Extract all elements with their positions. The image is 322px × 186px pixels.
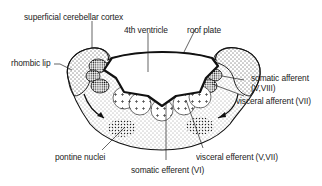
label-rhombic-lip: rhombic lip bbox=[11, 58, 50, 68]
label-somatic-afferent-nerves: (V,VIII) bbox=[251, 83, 276, 93]
label-4th-ventricle: 4th ventricle bbox=[124, 25, 168, 35]
pontine-right bbox=[186, 117, 214, 135]
label-pontine-nuclei: pontine nuclei bbox=[55, 152, 105, 162]
pontine-left bbox=[108, 119, 136, 137]
label-somatic-efferent: somatic efferent (VI) bbox=[131, 165, 204, 175]
label-superficial-cerebellar-cortex: superficial cerebellar cortex bbox=[24, 12, 123, 22]
label-visceral-efferent: visceral efferent (V,VII) bbox=[196, 152, 278, 162]
label-roof-plate: roof plate bbox=[187, 25, 221, 35]
label-visceral-afferent: visceral afferent (VII) bbox=[236, 96, 311, 106]
left-alar-lower bbox=[91, 79, 109, 93]
